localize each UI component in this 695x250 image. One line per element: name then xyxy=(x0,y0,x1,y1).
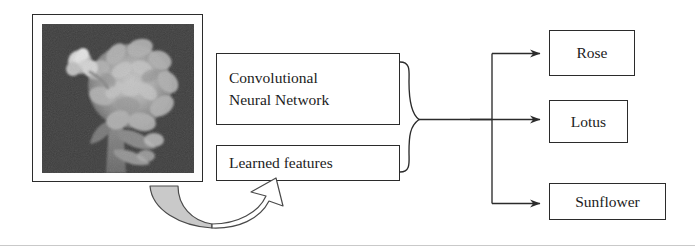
right-curly-brace-icon xyxy=(400,62,419,172)
input-image-frame xyxy=(32,14,203,182)
output-box-lotus: Lotus xyxy=(549,100,628,143)
cnn-box-label: Convolutional Neural Network xyxy=(229,67,329,111)
flower-photograph-icon xyxy=(42,24,194,173)
output-label-rose: Rose xyxy=(577,44,608,62)
cnn-box: Convolutional Neural Network xyxy=(216,53,400,125)
cnn-box-label-line1: Convolutional xyxy=(229,69,318,86)
learned-features-box: Learned features xyxy=(216,145,400,181)
learned-features-label: Learned features xyxy=(229,154,333,172)
page-rule xyxy=(0,245,695,246)
cnn-box-label-line2: Neural Network xyxy=(229,91,329,108)
output-label-lotus: Lotus xyxy=(571,113,606,131)
curved-block-arrow-icon xyxy=(150,178,283,228)
output-box-sunflower: Sunflower xyxy=(549,183,666,220)
output-box-rose: Rose xyxy=(549,30,635,76)
diagram-canvas: Convolutional Neural Network Learned fea… xyxy=(0,0,695,250)
output-label-sunflower: Sunflower xyxy=(575,193,640,211)
